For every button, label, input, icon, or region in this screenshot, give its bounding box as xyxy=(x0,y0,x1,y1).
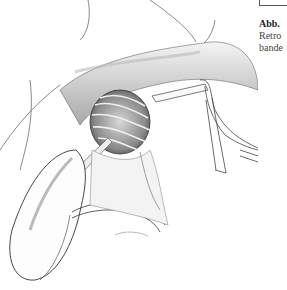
forceps xyxy=(206,98,258,173)
figure-caption: Abb. Retro bande xyxy=(259,18,283,54)
tissue-fold xyxy=(60,42,258,125)
caption-line-2: bande xyxy=(259,42,283,54)
figure-label: Abb. xyxy=(259,18,283,30)
exposed-muscle xyxy=(90,90,150,154)
retractor-hook xyxy=(152,84,208,102)
figure-frame-corner xyxy=(259,0,287,6)
tissue-mass xyxy=(90,150,168,225)
caption-line-1: Retro xyxy=(259,30,283,42)
surgical-illustration xyxy=(0,0,258,290)
spatula-retractor xyxy=(10,150,86,280)
